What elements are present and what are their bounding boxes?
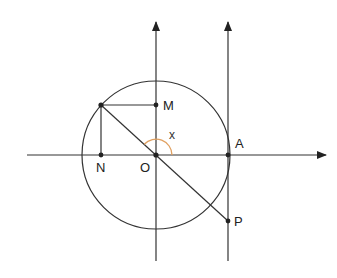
label-n: N xyxy=(96,160,105,175)
angle-arc xyxy=(144,139,172,155)
point-n xyxy=(99,153,104,158)
point-m xyxy=(154,103,159,108)
label-m: M xyxy=(163,98,174,113)
point-circle xyxy=(98,102,103,107)
point-a xyxy=(226,153,231,158)
trig-circle-diagram: M N O A P x xyxy=(0,0,337,278)
point-o xyxy=(153,152,158,157)
label-a: A xyxy=(235,136,244,151)
label-p: P xyxy=(234,214,243,229)
point-p xyxy=(226,219,231,224)
ray-line xyxy=(101,105,228,221)
label-angle-x: x xyxy=(169,128,175,142)
label-o: O xyxy=(140,160,150,175)
